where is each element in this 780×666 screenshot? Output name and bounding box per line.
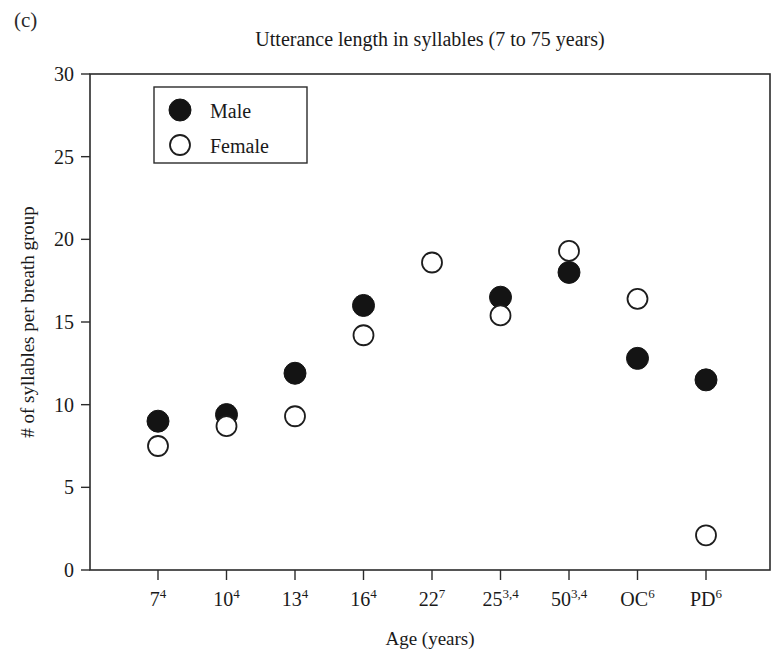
data-point-female [217, 416, 237, 436]
legend-label-female: Female [210, 135, 269, 157]
x-tick-label: PD6 [690, 586, 723, 610]
y-tick-label: 5 [64, 476, 74, 498]
data-point-female [422, 252, 442, 272]
data-point-female [491, 305, 511, 325]
x-tick-label: 74 [150, 586, 167, 610]
y-tick-label: 30 [54, 63, 74, 85]
y-tick-label: 20 [54, 228, 74, 250]
data-point-male [558, 261, 580, 283]
y-tick-label: 25 [54, 146, 74, 168]
figure-container: (c) Utterance length in syllables (7 to … [0, 0, 780, 666]
data-point-male [147, 410, 169, 432]
legend-label-male: Male [210, 100, 251, 122]
x-tick-label: 253,4 [482, 586, 519, 610]
data-point-female [696, 525, 716, 545]
data-point-female [285, 406, 305, 426]
data-points-layer [147, 241, 717, 545]
x-axis-tick-labels: 74104134164227253,4503,4OC6PD6 [150, 586, 723, 610]
y-tick-label: 15 [54, 311, 74, 333]
x-tick-label: 227 [419, 586, 446, 610]
x-tick-label: 503,4 [551, 586, 588, 610]
x-tick-label: 104 [213, 586, 240, 610]
y-axis-tick-labels: 051015202530 [54, 63, 74, 581]
data-point-male [627, 347, 649, 369]
legend-marker-female [170, 135, 190, 155]
data-point-female [628, 289, 648, 309]
scatter-plot: 051015202530 74104134164227253,4503,4OC6… [0, 0, 780, 666]
data-point-male [284, 362, 306, 384]
x-axis-ticks [158, 570, 706, 580]
y-axis-title: # of syllables per breath group [17, 206, 38, 438]
y-tick-label: 0 [64, 559, 74, 581]
data-point-female [559, 241, 579, 261]
data-point-female [354, 325, 374, 345]
x-tick-label: OC6 [620, 586, 655, 610]
data-point-male [695, 369, 717, 391]
y-axis-ticks [81, 74, 90, 570]
y-tick-label: 10 [54, 394, 74, 416]
x-tick-label: 164 [350, 586, 377, 610]
data-point-male [353, 294, 375, 316]
data-point-female [148, 436, 168, 456]
legend: Male Female [154, 87, 307, 163]
x-tick-label: 134 [282, 586, 309, 610]
x-axis-title: Age (years) [385, 628, 474, 650]
legend-marker-male [169, 99, 191, 121]
